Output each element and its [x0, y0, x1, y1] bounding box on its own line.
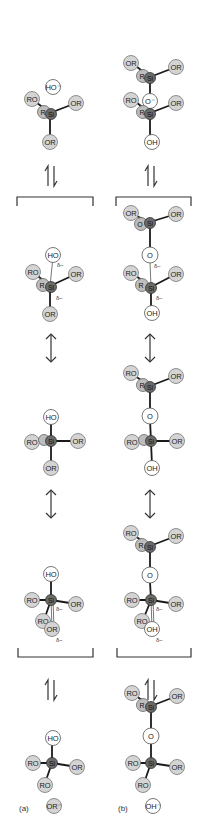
svg-text:OR: OR [171, 763, 183, 772]
svg-text:OR: OR [170, 532, 182, 541]
svg-text:Si: Si [148, 438, 155, 445]
svg-text:δ−: δ− [154, 263, 161, 269]
svg-text:OR: OR [125, 209, 137, 218]
svg-text:OR: OR [171, 692, 183, 701]
svg-text:RO: RO [39, 781, 50, 790]
svg-text:RO: RO [126, 596, 137, 605]
svg-text:Si: Si [148, 704, 155, 711]
a-equilibrium-arrow-1 [45, 166, 57, 186]
svg-text:R: R [138, 542, 143, 549]
a-resonance-arrow-1 [46, 334, 56, 362]
b-resonance-arrow-1 [145, 334, 155, 362]
svg-text:δ−: δ− [56, 295, 63, 301]
svg-text:OR: OR [72, 437, 84, 446]
b-equilibrium-arrow-1 [145, 166, 157, 186]
svg-text:Si: Si [148, 597, 155, 604]
svg-text:OH: OH [146, 464, 157, 473]
svg-text:OR: OR [170, 63, 182, 72]
svg-text:Si: Si [147, 220, 154, 227]
svg-text:O⁻: O⁻ [145, 97, 155, 106]
svg-text:HO⁻: HO⁻ [45, 83, 60, 92]
a-ts-bracket-top [17, 197, 93, 206]
svg-text:O: O [137, 221, 143, 228]
a-ts-bracket-bottom [18, 648, 93, 657]
svg-text:δ−: δ− [56, 606, 63, 612]
svg-text:OR: OR [170, 270, 182, 279]
svg-text:RO: RO [125, 529, 136, 538]
svg-text:Si: Si [49, 760, 56, 767]
svg-text:O: O [147, 412, 153, 421]
svg-text:RO: RO [137, 781, 148, 790]
svg-text:Si: Si [48, 284, 55, 291]
svg-text:R: R [40, 109, 45, 116]
svg-text:OR: OR [44, 310, 56, 319]
svg-text:OH⁻: OH⁻ [145, 802, 160, 811]
svg-text:R: R [138, 282, 143, 289]
panel-label-a: (a) [19, 804, 29, 813]
svg-text:OR: OR [170, 600, 182, 609]
svg-text:OR: OR [44, 138, 56, 147]
svg-text:RO: RO [27, 759, 38, 768]
svg-text:δ−: δ− [156, 295, 163, 301]
b-products: RO R Si OR O RO Si OR RO OH⁻ [125, 686, 185, 814]
svg-text:RO: RO [127, 759, 138, 768]
svg-text:HO: HO [45, 570, 56, 579]
svg-text:RO: RO [26, 438, 37, 447]
svg-text:OR: OR [71, 763, 83, 772]
a-pentacoordinate-intermediate: HO RO Si OR OR [25, 410, 86, 476]
svg-text:O: O [147, 571, 153, 580]
svg-text:HO: HO [47, 734, 58, 743]
panel-label-b: (b) [118, 804, 128, 813]
svg-text:OR: OR [45, 464, 57, 473]
svg-text:OR⁻: OR⁻ [46, 802, 61, 811]
svg-text:Si: Si [148, 285, 155, 292]
svg-text:Si: Si [148, 760, 155, 767]
svg-text:R: R [39, 282, 44, 289]
svg-text:RO: RO [126, 438, 137, 447]
svg-text:OH: OH [146, 309, 157, 318]
svg-text:OH: OH [146, 625, 157, 634]
a-reactant: HO⁻ RO R Si OR OR [25, 80, 84, 150]
svg-text:OR: OR [170, 210, 182, 219]
b-transition-state-1: OR O Si OR O δ− RO R Si δ− OR OH [124, 206, 184, 321]
b-ts-bracket-bottom [117, 648, 191, 657]
svg-text:OR: OR [171, 437, 183, 446]
a-equilibrium-arrow-2 [45, 680, 57, 700]
svg-text:Si: Si [147, 384, 154, 391]
svg-text:δ−: δ− [156, 637, 163, 643]
svg-text:O: O [147, 251, 153, 260]
svg-text:RO: RO [26, 95, 37, 104]
svg-text:OR: OR [170, 372, 182, 381]
svg-text:Si: Si [48, 111, 55, 118]
svg-text:R: R [139, 73, 144, 80]
b-pentacoordinate-intermediate: RO R Si OR O RO Si OR OH [124, 366, 185, 476]
a-transition-state-2: HO RO Si δ− OR RO OR δ− [25, 567, 84, 644]
a-resonance-arrow-2 [46, 490, 56, 518]
svg-text:R: R [139, 382, 144, 389]
svg-text:δ−: δ− [56, 637, 63, 643]
svg-text:O: O [148, 732, 154, 741]
svg-text:RO: RO [126, 689, 137, 698]
svg-text:OR: OR [170, 99, 182, 108]
svg-text:Si: Si [147, 111, 154, 118]
b-ts-bracket-top [116, 197, 191, 206]
svg-text:OR: OR [46, 625, 58, 634]
siloxane-reaction-mechanism-diagram: HO⁻ RO R Si OR OR HO δ− RO R Si δ− OR [0, 0, 206, 834]
svg-text:R: R [139, 109, 144, 116]
svg-text:RO: RO [26, 596, 37, 605]
svg-text:HO: HO [45, 413, 56, 422]
b-transition-state-2: RO R Si OR O RO Si δ− OR RO OH δ− [124, 526, 184, 644]
svg-text:RO: RO [125, 369, 136, 378]
svg-text:Si: Si [48, 597, 55, 604]
svg-text:Si: Si [147, 544, 154, 551]
a-transition-state-1: HO δ− RO R Si δ− OR OR [26, 248, 84, 322]
b-equilibrium-arrow-2 [145, 680, 157, 700]
svg-text:OR: OR [125, 59, 137, 68]
svg-text:RO: RO [27, 268, 38, 277]
svg-text:δ−: δ− [156, 606, 163, 612]
svg-text:OR: OR [70, 270, 82, 279]
a-products: HO RO Si OR RO OR⁻ [26, 731, 85, 814]
svg-text:HO: HO [47, 251, 58, 260]
b-resonance-arrow-2 [145, 490, 155, 518]
svg-text:Si: Si [147, 75, 154, 82]
